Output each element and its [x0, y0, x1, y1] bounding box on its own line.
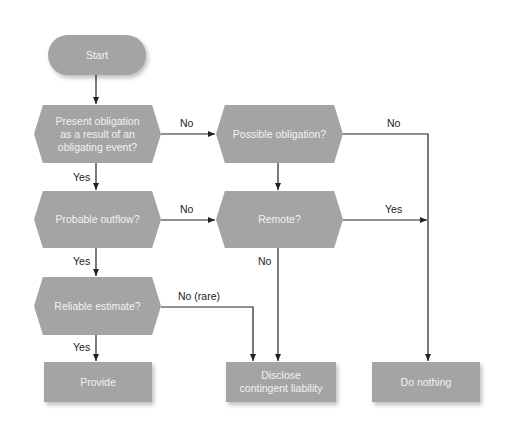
edge-label-remote-yes: Yes [385, 203, 402, 215]
edge-label-probable-yes: Yes [73, 255, 90, 267]
outcome-do-nothing: Do nothing [372, 362, 480, 402]
label-line: Disclose [261, 369, 301, 381]
present-obligation-label: Present obligation as a result of an obl… [49, 115, 145, 154]
start-node: Start [48, 35, 146, 75]
edge-label-present-yes: Yes [73, 171, 90, 183]
remote-label: Remote? [252, 213, 307, 226]
decision-remote: Remote? [216, 191, 343, 248]
decision-reliable-estimate: Reliable estimate? [34, 277, 161, 335]
outcome-disclose: Disclose contingent liability [226, 362, 336, 402]
label-line: as a result of an [60, 128, 135, 140]
edge-label-present-no: No [180, 117, 193, 129]
reliable-estimate-label: Reliable estimate? [48, 300, 146, 313]
possible-obligation-label: Possible obligation? [227, 128, 332, 141]
label-line: obligating event? [58, 141, 137, 153]
decision-possible-obligation: Possible obligation? [216, 105, 343, 163]
label-line: Present obligation [55, 115, 139, 127]
edge-label-probable-no: No [180, 203, 193, 215]
do-nothing-label: Do nothing [395, 376, 458, 389]
decision-present-obligation: Present obligation as a result of an obl… [34, 105, 161, 163]
outcome-provide: Provide [44, 362, 152, 402]
edge-label-reliable-no: No (rare) [178, 290, 220, 302]
edge-label-remote-no: No [258, 255, 271, 267]
decision-probable-outflow: Probable outflow? [34, 191, 161, 248]
edge-label-reliable-yes: Yes [73, 341, 90, 353]
start-label: Start [80, 49, 114, 62]
edge-label-possible-no: No [387, 117, 400, 129]
probable-outflow-label: Probable outflow? [49, 213, 145, 226]
label-line: contingent liability [240, 382, 323, 394]
disclose-label: Disclose contingent liability [234, 369, 329, 395]
provide-label: Provide [74, 376, 122, 389]
